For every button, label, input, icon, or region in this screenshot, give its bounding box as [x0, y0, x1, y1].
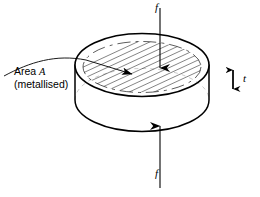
area-label-line1: Area A [14, 65, 68, 78]
thickness-label: t [243, 72, 246, 85]
figure-canvas: Area A (metallised) f f t [0, 0, 260, 197]
force-bottom-label: f [155, 167, 158, 180]
force-top-label: f [155, 1, 158, 14]
area-label-prefix: Area [14, 65, 39, 77]
disc-top-face [75, 34, 209, 97]
diagram-svg [0, 0, 260, 197]
area-label: Area A (metallised) [14, 65, 68, 90]
area-variable-a: A [39, 66, 45, 77]
area-label-line2: (metallised) [14, 78, 68, 90]
